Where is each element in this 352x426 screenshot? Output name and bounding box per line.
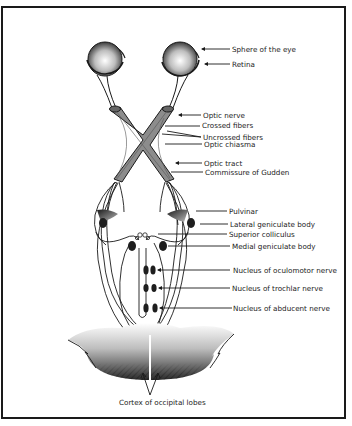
left-eye — [87, 42, 125, 108]
label-optic-nerve: Optic nerve — [203, 112, 245, 119]
label-medial-geniculate-body: Medial geniculate body — [232, 243, 316, 250]
occipital-cortex — [68, 323, 234, 380]
label-sphere-of-eye: Sphere of the eye — [232, 46, 296, 53]
visual-pathway-illustration — [0, 0, 352, 426]
label-superior-colliculus: Superior colliculus — [229, 231, 295, 238]
label-nucleus-oculomotor: Nucleus of oculomotor nerve — [233, 267, 337, 274]
label-nucleus-abducent: Nucleus of abducent nerve — [233, 305, 330, 312]
label-cortex-occipital-lobes: Cortex of occipital lobes — [119, 399, 206, 406]
medial-geniculate-left — [128, 241, 136, 251]
label-nucleus-trochlar: Nucleus of trochlar nerve — [232, 285, 323, 292]
optic-chiasma — [110, 106, 175, 182]
cranial-nerve-nuclei — [143, 266, 157, 313]
pulvinar-left — [97, 210, 118, 229]
optic-radiation-fibers — [94, 182, 189, 345]
label-optic-chiasma: Optic chiasma — [204, 141, 255, 148]
label-commissure-of-gudden: Commissure of Gudden — [205, 169, 289, 176]
label-retina: Retina — [232, 61, 255, 68]
label-lateral-geniculate-body: Lateral geniculate body — [230, 221, 315, 228]
label-crossed-fibers: Crossed fibers — [202, 122, 253, 129]
pulvinar-right — [167, 210, 195, 229]
label-optic-tract: Optic tract — [204, 160, 242, 167]
right-eye — [162, 42, 199, 108]
medial-geniculate-right — [159, 241, 167, 251]
label-pulvinar: Pulvinar — [229, 208, 258, 215]
